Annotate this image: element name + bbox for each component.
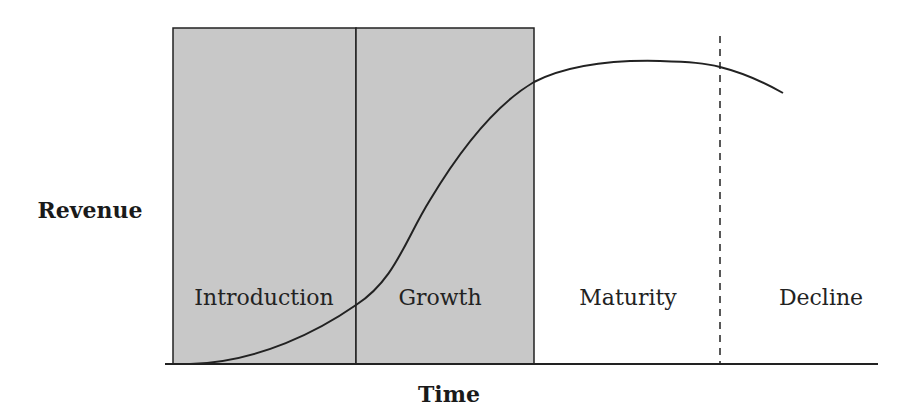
x-axis-label: Time <box>418 381 480 407</box>
stage-label-maturity: Maturity <box>579 285 677 310</box>
shaded-region-introduction <box>173 28 356 364</box>
y-axis-label: Revenue <box>37 197 142 223</box>
stage-label-decline: Decline <box>779 285 863 310</box>
stage-label-introduction: Introduction <box>194 285 333 310</box>
stage-label-growth: Growth <box>398 285 481 310</box>
product-life-cycle-diagram: Introduction Growth Maturity Decline Rev… <box>0 0 902 420</box>
shaded-region-growth <box>356 28 534 364</box>
